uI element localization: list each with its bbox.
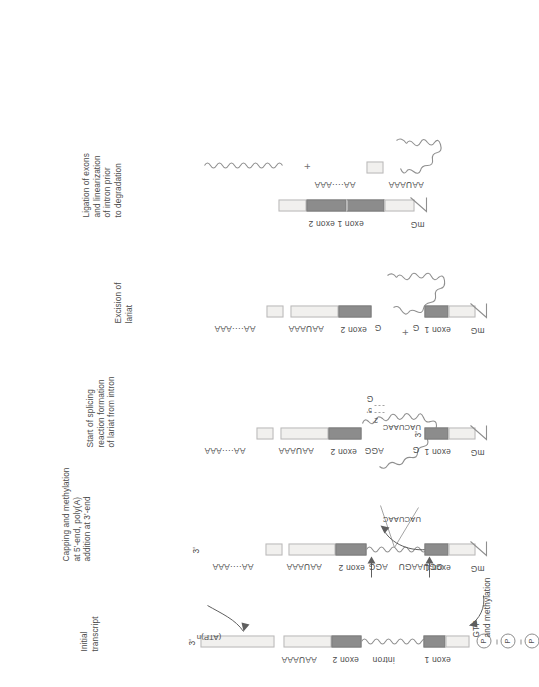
caption-ligation: Ligation of exons and linearization of i… bbox=[80, 101, 122, 217]
phosphate-circle-2: P bbox=[500, 633, 515, 648]
exon2-bar bbox=[331, 635, 361, 647]
phosphate-circle-3: P bbox=[524, 633, 539, 648]
label-polya-tail: AA····AAA bbox=[212, 561, 253, 571]
label-g-exon1: G bbox=[412, 322, 419, 332]
stage-initial-transcript: Initial transcript 3' AAUAAA exon 2 intr… bbox=[0, 573, 394, 669]
branch-bond-dashes bbox=[372, 401, 390, 415]
label-aauaaa: AAUAAA bbox=[288, 323, 323, 333]
phosphate-dash-2 bbox=[520, 639, 521, 644]
label-aauaaa-capped: AAUAAA bbox=[286, 561, 321, 571]
exon2-bar bbox=[335, 543, 366, 555]
label-5prime: 5' bbox=[366, 406, 371, 413]
cap-structure bbox=[470, 531, 492, 557]
label-exon2: exon 2 bbox=[330, 446, 356, 456]
label-mg-cap: mG bbox=[470, 325, 484, 335]
splice-curved-arrow bbox=[376, 515, 428, 555]
label-3prime-capped: 3' bbox=[190, 546, 200, 553]
label-exon1: exon 1 bbox=[424, 324, 450, 334]
exon2-bar bbox=[328, 427, 361, 439]
label-3prime: 3' bbox=[186, 638, 196, 645]
plus-separator: + bbox=[398, 329, 410, 335]
cap-structure bbox=[470, 293, 492, 319]
label-agg: AGG bbox=[364, 445, 383, 455]
polya-box bbox=[366, 161, 383, 173]
label-polya-tail: AA····AAA bbox=[214, 323, 255, 333]
exon2-utr-bar bbox=[290, 305, 338, 317]
label-intron: intron bbox=[372, 654, 394, 664]
label-2prime: 2' bbox=[372, 416, 377, 423]
cap-structure bbox=[470, 415, 492, 441]
intron-wavy-line bbox=[361, 633, 423, 647]
label-exon2: exon 2 bbox=[338, 562, 364, 572]
label-exon1: exon 1 bbox=[424, 654, 450, 664]
exon1-bar bbox=[346, 199, 384, 211]
label-exon1-exon2: exon 1 exon 2 bbox=[308, 218, 363, 228]
exon1-pointer-arrow bbox=[424, 553, 436, 577]
gtp-arrow bbox=[455, 587, 489, 647]
phosphate-dash-1 bbox=[496, 639, 497, 644]
caption-capping: Capping and methylation at 5'-end, poly(… bbox=[60, 453, 92, 561]
label-g3prime: G bbox=[412, 444, 419, 454]
polya-box bbox=[256, 427, 273, 439]
label-aauaaa: AAUAAA bbox=[281, 654, 316, 664]
exon2-utr-bar bbox=[280, 427, 328, 439]
label-mg-cap: mG bbox=[470, 447, 484, 457]
exon2-utr-bar bbox=[288, 543, 335, 555]
atp-arrow bbox=[205, 593, 253, 635]
stage-excision-of-lariat: Excision of lariat AA····AAA AAUAAA exon… bbox=[0, 233, 394, 337]
lariat-loop-remnant bbox=[402, 117, 464, 173]
label-exon2: exon 2 bbox=[332, 654, 358, 664]
cap-structure bbox=[410, 187, 432, 213]
label-agg: AGG bbox=[368, 561, 387, 571]
linear-intron-wavy bbox=[204, 157, 286, 171]
stage-capping-polyadenylation: Capping and methylation at 5'-end, poly(… bbox=[0, 465, 394, 575]
label-g-exon2: G bbox=[374, 322, 381, 332]
stage-start-of-splicing: Start of splicing reaction formation of … bbox=[0, 341, 394, 459]
mrna-utr5-bar bbox=[384, 199, 414, 211]
label-exon1: exon 1 bbox=[424, 446, 450, 456]
polya-box bbox=[266, 305, 283, 317]
exon1-bar bbox=[424, 305, 448, 317]
mrna-utr3-bar bbox=[278, 199, 306, 211]
exon2-bar bbox=[338, 305, 371, 317]
caption-start-splicing: Start of splicing reaction formation of … bbox=[84, 335, 116, 447]
label-mg-cap: mG bbox=[410, 219, 424, 229]
exon2-utr-bar bbox=[283, 635, 331, 647]
label-polya-tail: AA····AAA bbox=[204, 445, 245, 455]
stage-ligation-of-exons: Ligation of exons and linearization of i… bbox=[0, 111, 394, 231]
label-3prime-exon1: 3' bbox=[412, 430, 422, 437]
label-mg-cap: mG bbox=[470, 563, 484, 573]
label-aauaaa: AAUAAA bbox=[278, 445, 313, 455]
exon1-bar bbox=[423, 635, 445, 647]
caption-excision: Excision of lariat bbox=[112, 223, 133, 323]
lariat-loop-free bbox=[392, 245, 464, 311]
exon1-bar bbox=[424, 427, 448, 439]
label-polya-tail: AA····AAA bbox=[314, 179, 355, 189]
polya-box bbox=[265, 543, 282, 555]
label-exon2: exon 2 bbox=[340, 324, 366, 334]
exon2-bar bbox=[306, 199, 346, 211]
plus-separator: + bbox=[300, 163, 312, 169]
